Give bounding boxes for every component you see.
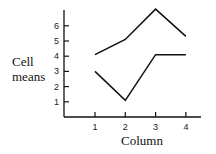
x-ticks: 1234 — [92, 112, 188, 132]
x-tick-label: 2 — [123, 122, 128, 132]
y-tick-label: 2 — [54, 82, 59, 92]
data-series — [95, 9, 186, 100]
series-line-lower — [95, 55, 186, 101]
y-axis-label-line1: Cell — [12, 54, 34, 69]
y-tick-label: 3 — [54, 66, 59, 76]
y-tick-label: 6 — [54, 21, 59, 31]
y-ticks: 123456 — [54, 21, 69, 107]
y-axis-label-line2: means — [12, 69, 45, 84]
y-tick-label: 1 — [54, 97, 59, 107]
x-tick-label: 4 — [183, 122, 188, 132]
y-tick-label: 5 — [54, 36, 59, 46]
x-tick-label: 1 — [92, 122, 97, 132]
series-line-upper — [95, 9, 186, 55]
y-tick-label: 4 — [54, 51, 59, 61]
chart: 123456 1234 Cell means Column — [0, 0, 216, 154]
x-tick-label: 3 — [153, 122, 158, 132]
x-axis-label: Column — [121, 133, 163, 148]
